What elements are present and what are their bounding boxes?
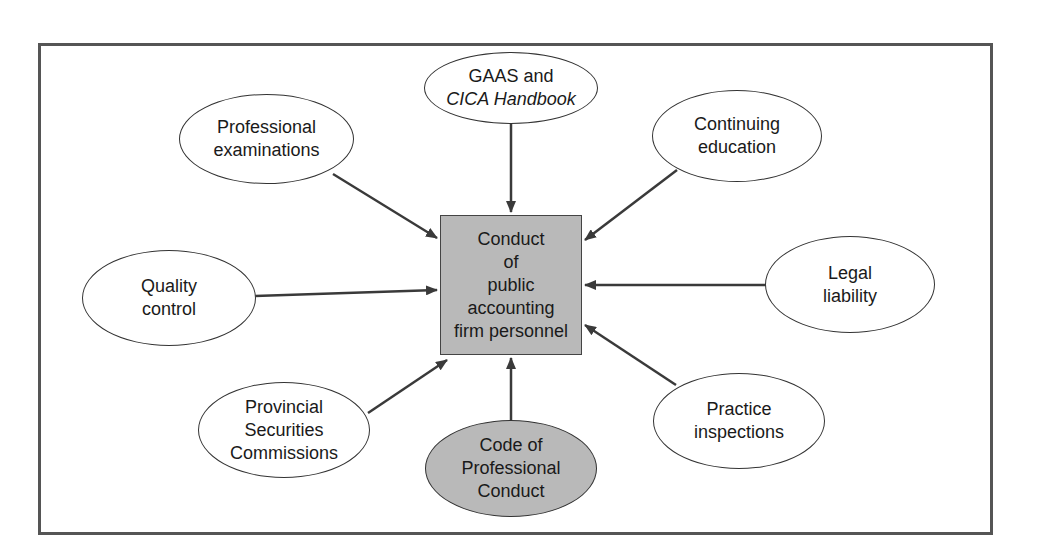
- node-label: Professional: [461, 457, 560, 480]
- node-label: Professional: [213, 116, 319, 139]
- arrow-professional-examinations: [333, 174, 437, 238]
- node-label: Quality: [141, 275, 197, 298]
- node-label: GAAS and: [446, 65, 575, 88]
- node-practice-inspections: Practice inspections: [653, 373, 825, 469]
- center-line: public: [454, 274, 568, 297]
- node-label: Commissions: [230, 442, 338, 465]
- node-gaas: GAAS and CICA Handbook: [424, 52, 598, 124]
- center-box-conduct: Conduct of public accounting firm person…: [440, 215, 582, 355]
- node-label: Conduct: [461, 480, 560, 503]
- arrow-continuing-education: [585, 170, 677, 240]
- arrow-provincial-securities: [368, 360, 447, 413]
- node-label: Securities: [230, 419, 338, 442]
- arrow-quality-control: [255, 290, 437, 296]
- center-line: accounting: [454, 297, 568, 320]
- node-label: inspections: [694, 421, 784, 444]
- node-quality-control: Quality control: [82, 250, 256, 346]
- node-label: Practice: [694, 398, 784, 421]
- node-professional-examinations: Professional examinations: [179, 94, 354, 184]
- node-label: Legal: [823, 262, 877, 285]
- node-provincial-securities-commissions: Provincial Securities Commissions: [198, 382, 370, 478]
- node-code-of-professional-conduct: Code of Professional Conduct: [425, 420, 597, 517]
- node-label: examinations: [213, 139, 319, 162]
- center-line: firm personnel: [454, 320, 568, 343]
- node-label: education: [694, 136, 780, 159]
- node-label: Continuing: [694, 113, 780, 136]
- center-line: of: [454, 251, 568, 274]
- node-label: liability: [823, 285, 877, 308]
- node-label: Code of: [461, 434, 560, 457]
- node-label: control: [141, 298, 197, 321]
- node-continuing-education: Continuing education: [652, 90, 822, 182]
- arrow-practice-inspections: [585, 325, 676, 385]
- node-label: Provincial: [230, 396, 338, 419]
- center-line: Conduct: [454, 228, 568, 251]
- node-legal-liability: Legal liability: [765, 236, 935, 333]
- node-label: CICA Handbook: [446, 88, 575, 111]
